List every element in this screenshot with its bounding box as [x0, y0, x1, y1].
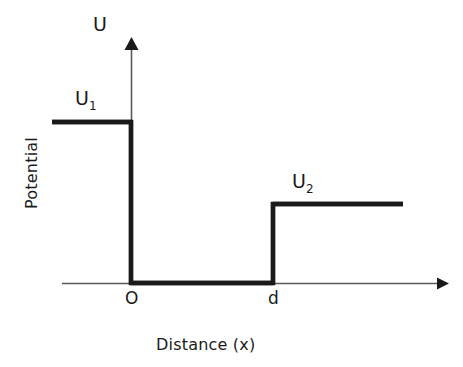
y-axis-symbol-label: U — [93, 15, 107, 34]
u1-label-subscript: 1 — [89, 99, 97, 113]
d-tick-label: d — [268, 290, 279, 307]
u2-label: U2 — [292, 172, 314, 195]
u1-label-main: U — [75, 87, 89, 109]
y-axis-title: Potential — [24, 130, 40, 216]
u1-label: U1 — [75, 89, 97, 112]
y-axis-arrowhead-icon — [125, 37, 139, 50]
x-axis-arrowhead-icon — [437, 278, 449, 290]
x-axis-title: Distance (x) — [156, 337, 255, 353]
u2-label-subscript: 2 — [306, 182, 314, 196]
potential-diagram-svg — [0, 0, 463, 367]
u2-label-main: U — [292, 170, 306, 192]
origin-tick-label: O — [125, 290, 139, 307]
potential-step-figure: U U1 U2 O d Potential Distance (x) — [0, 0, 463, 367]
